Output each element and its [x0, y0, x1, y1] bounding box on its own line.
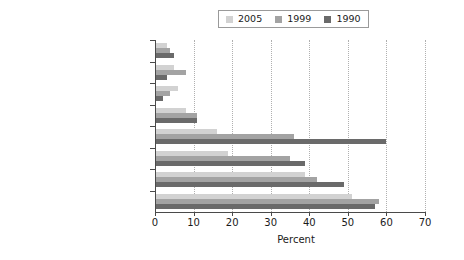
plot-area — [155, 40, 425, 212]
bar-chart: 200519991990 Percent Northern AfricaForm… — [0, 0, 464, 260]
y-axis-tick — [150, 191, 155, 192]
x-axis-tick-10 — [194, 212, 195, 216]
y-axis-tick — [150, 40, 155, 41]
legend-item-2005[interactable]: 2005 — [226, 14, 262, 24]
x-axis-tick-70 — [425, 212, 426, 216]
x-axis-tick-label: 40 — [294, 218, 324, 228]
bar-1990 — [155, 118, 197, 123]
x-axis-tick-40 — [309, 212, 310, 216]
legend-item-label: 1999 — [287, 14, 311, 24]
legend-item-label: 2005 — [238, 14, 262, 24]
y-axis-tick — [150, 169, 155, 170]
bar-1990 — [155, 204, 375, 209]
x-axis-tick-20 — [232, 212, 233, 216]
legend-swatch-icon — [275, 16, 282, 23]
y-axis-line — [155, 40, 156, 212]
bar-1990 — [155, 75, 167, 80]
bar-group — [155, 105, 425, 127]
bar-group — [155, 169, 425, 191]
bar-group — [155, 40, 425, 62]
x-axis-tick-0 — [155, 212, 156, 216]
chart-legend: 200519991990 — [218, 10, 369, 28]
x-axis-tick-30 — [271, 212, 272, 216]
x-axis-tick-label: 60 — [371, 218, 401, 228]
bar-1990 — [155, 96, 163, 101]
x-axis-title-text: Percent — [277, 234, 315, 245]
x-axis-tick-label: 0 — [140, 218, 170, 228]
y-axis-tick — [150, 62, 155, 63]
x-axis-tick-label: 70 — [410, 218, 440, 228]
y-axis-tick — [150, 148, 155, 149]
bar-group — [155, 83, 425, 105]
bar-1990 — [155, 182, 344, 187]
gridline-70 — [425, 40, 426, 212]
bar-group — [155, 148, 425, 170]
legend-item-label: 1990 — [336, 14, 360, 24]
y-axis-tick — [150, 105, 155, 106]
x-axis-tick-label: 10 — [179, 218, 209, 228]
x-axis-title: Percent — [0, 234, 464, 245]
legend-item-1990[interactable]: 1990 — [324, 14, 360, 24]
y-axis-tick — [150, 83, 155, 84]
bar-group — [155, 126, 425, 148]
bar-1990 — [155, 53, 174, 58]
y-axis-tick — [150, 126, 155, 127]
legend-swatch-icon — [226, 16, 233, 23]
x-axis-tick-label: 30 — [256, 218, 286, 228]
x-axis-tick-label: 20 — [217, 218, 247, 228]
x-axis-tick-label: 50 — [333, 218, 363, 228]
x-axis-line — [155, 212, 425, 213]
legend-item-1999[interactable]: 1999 — [275, 14, 311, 24]
x-axis-tick-50 — [348, 212, 349, 216]
bar-group — [155, 62, 425, 84]
bar-1990 — [155, 161, 305, 166]
legend-swatch-icon — [324, 16, 331, 23]
x-axis-tick-60 — [386, 212, 387, 216]
bar-1990 — [155, 139, 386, 144]
bar-group — [155, 191, 425, 213]
